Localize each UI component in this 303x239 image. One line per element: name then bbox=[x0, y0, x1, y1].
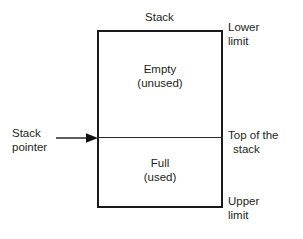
empty-region-line1: Empty bbox=[144, 63, 177, 75]
full-region-label: Full (used) bbox=[97, 156, 223, 184]
stack-diagram: Stack Empty (unused) Full (used) Lower l… bbox=[0, 0, 303, 239]
upper-limit-line2: limit bbox=[228, 209, 248, 221]
full-region-line1: Full bbox=[151, 157, 170, 169]
top-of-stack-divider bbox=[97, 137, 223, 138]
stack-pointer-label: Stack pointer bbox=[12, 126, 47, 154]
empty-region-line2: (unused) bbox=[137, 77, 182, 89]
lower-limit-line2: limit bbox=[228, 35, 248, 47]
top-of-stack-line1: Top of the bbox=[228, 129, 279, 141]
stack-pointer-arrow-icon bbox=[56, 131, 98, 145]
upper-limit-label: Upper limit bbox=[228, 195, 259, 222]
top-of-stack-line2: stack bbox=[228, 143, 279, 157]
lower-limit-label: Lower limit bbox=[228, 21, 259, 48]
empty-region-label: Empty (unused) bbox=[97, 62, 223, 90]
upper-limit-line1: Upper bbox=[228, 195, 259, 207]
top-of-stack-label: Top of the stack bbox=[228, 129, 279, 156]
stack-pointer-line1: Stack bbox=[12, 127, 41, 139]
lower-limit-line1: Lower bbox=[228, 21, 259, 33]
stack-pointer-line2: pointer bbox=[12, 141, 47, 153]
full-region-line2: (used) bbox=[144, 171, 177, 183]
